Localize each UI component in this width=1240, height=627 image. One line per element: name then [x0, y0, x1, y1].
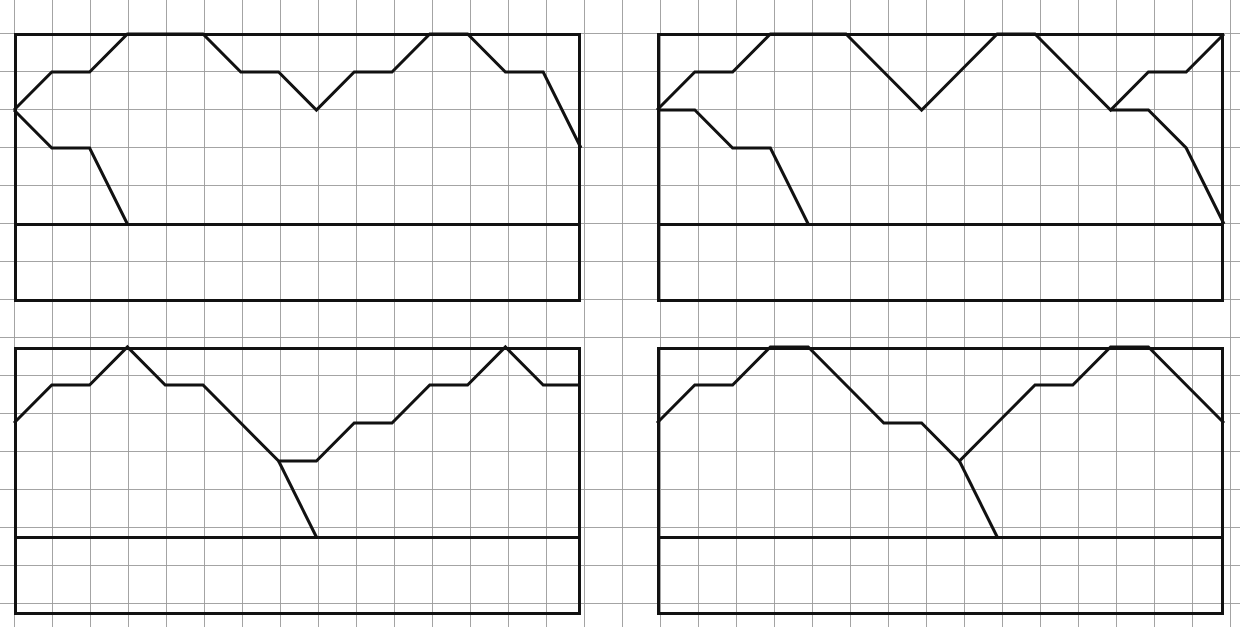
chart-panel-top-left	[14, 34, 581, 301]
profile-line-bottom-left-profile	[14, 347, 581, 461]
profile-line-top-right-lower-profile	[657, 110, 808, 224]
profile-line-top-left-lower-profile	[14, 110, 127, 224]
panel-frame-bottom-right	[659, 349, 1223, 614]
profile-line-bottom-left-valley-dip	[279, 461, 317, 537]
profile-line-top-right-upper-profile	[657, 34, 1224, 110]
profile-line-bottom-right-valley-dip	[959, 461, 997, 537]
panel-frame-top-right	[659, 35, 1223, 301]
chart-panel-bottom-left	[14, 347, 581, 614]
graph-paper-canvas	[0, 0, 1240, 627]
panel-layer	[0, 0, 1240, 627]
profile-line-bottom-right-profile	[657, 347, 1224, 461]
profile-line-top-right-descent-right	[1111, 110, 1224, 224]
profile-line-top-left-upper-profile	[14, 34, 581, 148]
chart-panel-top-right	[657, 34, 1224, 301]
panel-frame-bottom-left	[16, 349, 580, 614]
chart-panel-bottom-right	[657, 347, 1224, 614]
